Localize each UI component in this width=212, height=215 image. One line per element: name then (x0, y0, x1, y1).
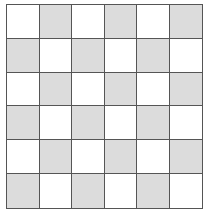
checkerboard-grid (6, 4, 203, 209)
grid-cell-shaded (170, 73, 203, 107)
grid-cell-shaded (72, 174, 105, 208)
grid-cell-light (7, 73, 40, 107)
grid-cell-light (105, 174, 138, 208)
grid-cell-light (170, 39, 203, 73)
grid-cell-shaded (7, 174, 40, 208)
grid-cell-light (137, 5, 170, 39)
grid-cell-light (7, 140, 40, 174)
grid-cell-shaded (170, 140, 203, 174)
grid-cell-shaded (7, 39, 40, 73)
grid-cell-shaded (40, 73, 73, 107)
grid-cell-light (137, 73, 170, 107)
grid-cell-light (7, 5, 40, 39)
grid-cell-shaded (105, 73, 138, 107)
grid-cell-light (105, 39, 138, 73)
grid-cell-shaded (105, 5, 138, 39)
grid-cell-shaded (170, 5, 203, 39)
grid-cell-shaded (137, 174, 170, 208)
grid-cell-light (72, 73, 105, 107)
grid-cell-shaded (72, 39, 105, 73)
grid-cell-light (170, 106, 203, 140)
grid-cell-shaded (40, 140, 73, 174)
grid-cell-shaded (137, 39, 170, 73)
grid-cell-light (72, 140, 105, 174)
grid-cell-shaded (40, 5, 73, 39)
grid-cell-shaded (137, 106, 170, 140)
grid-cell-shaded (105, 140, 138, 174)
grid-cell-shaded (72, 106, 105, 140)
grid-cell-light (170, 174, 203, 208)
grid-cell-light (40, 106, 73, 140)
grid-cell-light (105, 106, 138, 140)
grid-cell-light (137, 140, 170, 174)
grid-cell-light (40, 39, 73, 73)
grid-cell-light (40, 174, 73, 208)
grid-cell-light (72, 5, 105, 39)
grid-cell-shaded (7, 106, 40, 140)
